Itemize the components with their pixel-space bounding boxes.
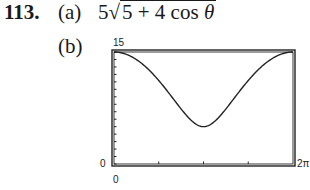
function-curve bbox=[114, 52, 293, 127]
graph-plot bbox=[0, 0, 310, 190]
plot-frame bbox=[112, 50, 295, 166]
